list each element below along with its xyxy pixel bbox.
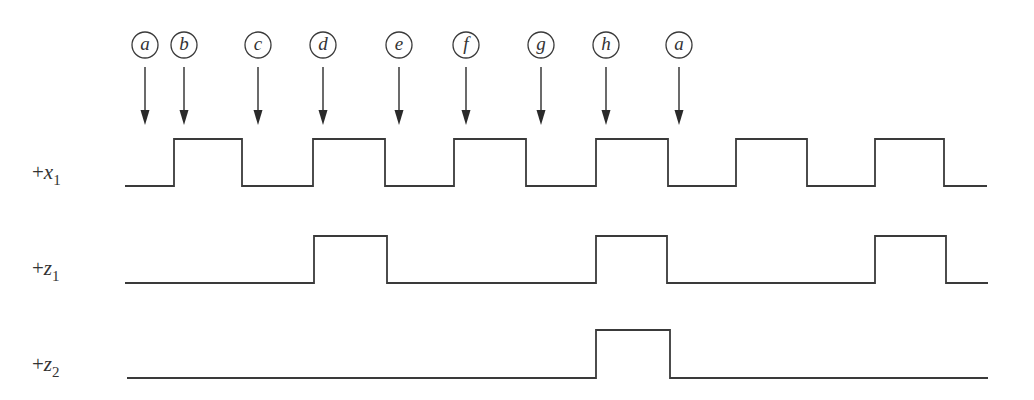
marker-label: b [171,31,197,57]
arrow-down-icon [141,110,150,125]
marker-label: c [245,31,271,57]
marker-label: h [593,31,619,57]
signal-prefix: + [32,160,44,184]
waveform-z1 [125,236,988,283]
arrow-down-icon [462,110,471,125]
signal-var: x [44,160,53,184]
signal-label-z2: +z2 [32,352,60,381]
arrow-down-icon [254,110,263,125]
arrow-down-icon [180,110,189,125]
signal-waveforms [125,139,988,378]
arrow-down-icon [319,110,328,125]
timing-diagram: +x1 +z1 +z2 abcdefgha [0,0,1034,400]
signal-subscript: 2 [52,364,60,380]
marker-label: a [666,31,692,57]
marker-label: g [528,31,554,57]
signal-var: z [44,352,52,376]
marker-label: d [310,31,336,57]
arrow-down-icon [537,110,546,125]
waveform-x1 [125,139,987,186]
marker-label: f [453,31,479,57]
signal-prefix: + [32,352,44,376]
signal-label-x1: +x1 [32,160,61,189]
waveform-z2 [127,330,988,378]
signal-subscript: 1 [52,268,60,284]
arrow-down-icon [602,110,611,125]
signal-label-z1: +z1 [32,256,60,285]
signal-prefix: + [32,256,44,280]
arrow-down-icon [675,110,684,125]
waveform-canvas [0,0,1034,400]
marker-label: a [132,31,158,57]
signal-var: z [44,256,52,280]
signal-subscript: 1 [53,172,61,188]
arrow-down-icon [395,110,404,125]
marker-label: e [386,31,412,57]
